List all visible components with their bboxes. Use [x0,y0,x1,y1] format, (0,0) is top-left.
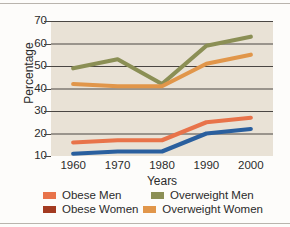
y-tick-label: 30 [13,105,47,117]
y-tick-label: 40 [13,83,47,95]
legend-entry: Obese Men [43,189,151,201]
legend-label: Overweight Women [162,203,263,215]
legend-label: Obese Women [62,203,139,215]
chart-figure: Percentage 10203040506070 19601970198019… [0,0,290,227]
legend-swatch [43,206,56,213]
figure-bottom-rule [0,223,290,224]
gridlines [51,22,273,157]
x-tick-label: 1990 [183,159,229,171]
legend-label: Overweight Men [170,189,254,201]
legend-label: Obese Men [62,189,121,201]
legend-entry: Overweight Men [151,189,254,201]
y-tick-mark [44,66,51,67]
y-tick-mark [44,156,51,157]
legend-row: Obese WomenOverweight Women [43,202,263,216]
x-tick-label: 1960 [50,159,96,171]
legend-swatch [43,192,56,199]
legend-row: Obese MenOverweight Men [43,188,263,202]
plot-area [51,21,273,156]
legend-entry: Obese Women [43,203,143,215]
legend-swatch [143,206,156,213]
x-axis-title: Years [51,174,273,188]
y-tick-mark [44,44,51,45]
y-tick-mark [44,134,51,135]
legend-entry: Overweight Women [143,203,263,215]
figure-top-rule [0,3,290,4]
x-tick-label: 2000 [228,159,274,171]
y-tick-label: 20 [13,128,47,140]
y-tick-mark [44,111,51,112]
y-tick-label: 10 [13,150,47,162]
legend-swatch [151,192,164,199]
y-tick-label: 70 [13,15,47,27]
chart-legend: Obese MenOverweight MenObese WomenOverwe… [43,188,263,216]
y-tick-mark [44,89,51,90]
x-tick-label: 1980 [139,159,185,171]
series-lines [73,37,251,154]
y-tick-label: 50 [13,60,47,72]
y-tick-mark [44,21,51,22]
x-tick-label: 1970 [95,159,141,171]
y-tick-label: 60 [13,38,47,50]
series-canvas [51,21,273,156]
